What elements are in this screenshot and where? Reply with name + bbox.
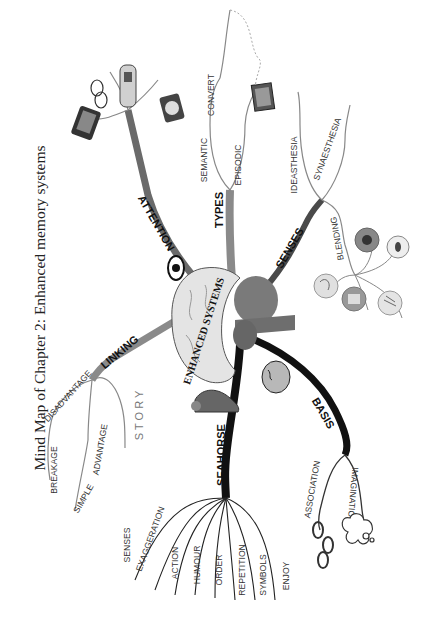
branch-label-attention: ATTENTION [136, 193, 177, 253]
seahorse-child-order: ORDER [214, 554, 224, 585]
linking-child-story: STORY [133, 388, 145, 441]
car-icon [120, 65, 136, 107]
nose-icon [342, 287, 366, 311]
eye-icon [168, 256, 184, 280]
types-dotted-link [230, 10, 260, 92]
seahorse-child-symbols: SYMBOLS [258, 554, 268, 596]
senses-child-ideasthesia: IDEASTHESIA [289, 136, 299, 193]
glasses-icon [91, 80, 107, 108]
tablet-icon [71, 105, 102, 141]
branch-label-seahorse: SEAHORSE [215, 424, 227, 486]
types-child-episodic: EPISODIC [233, 144, 243, 185]
photo-icon [251, 83, 274, 112]
chain-icon [313, 522, 333, 568]
head-icon [262, 361, 290, 393]
thought-cloud-icon [342, 514, 374, 544]
types-convert-line [220, 10, 230, 78]
seahorse-child-exaggeration: EXAGGERATION [134, 505, 167, 572]
eye-icon [387, 236, 409, 258]
seahorse-child-repetition: REPETITION [237, 544, 247, 596]
branch-basis [255, 340, 347, 455]
types-child-convert: CONVERT [206, 73, 216, 116]
types-child-semantic: SEMANTIC [199, 138, 209, 182]
seahorse-child-senses: SENSES [122, 527, 132, 562]
ear-icon [314, 274, 338, 298]
branch-types [230, 190, 232, 280]
seahorse-child-enjoy: ENJOY [281, 561, 291, 590]
branch-label-senses: SENSES [273, 226, 306, 271]
basis-child-association: ASSOCIATION [302, 460, 322, 519]
linking-child-simple: SIMPLE [71, 482, 96, 515]
mind-map: ENHANCED SYSTEMS ATTENTION TYPES SEMANTI… [0, 0, 433, 617]
senses-ideasthesia-line [298, 92, 322, 200]
seahorse-child-action: ACTION [170, 547, 180, 579]
mouth-icon [355, 228, 379, 252]
hand-icon [378, 291, 402, 315]
branch-label-types: TYPES [213, 192, 225, 228]
linking-child-disadvantage: DISADVANTAGE [42, 368, 94, 424]
clock-icon [159, 93, 185, 123]
basis-association-line [319, 455, 346, 530]
seahorse-child-humour: HUMOUR [192, 546, 202, 585]
branch-label-linking: LINKING [98, 333, 140, 371]
linking-child-breakage: BREAKAGE [49, 446, 59, 494]
linking-child-advantage: ADVANTAGE [91, 423, 110, 476]
